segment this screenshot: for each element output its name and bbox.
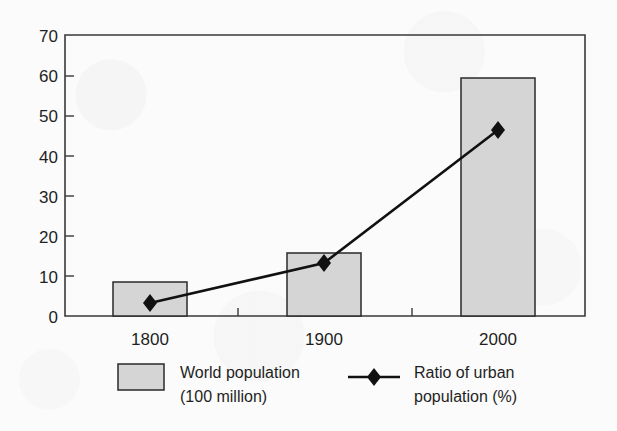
legend-swatch-bar-icon — [118, 364, 164, 390]
y-axis-tick-label-30: 30 — [39, 188, 58, 207]
legend-entry-world-population: World population (100 million) — [118, 364, 300, 405]
y-axis-tick-label-60: 60 — [39, 67, 58, 86]
legend-label-urban-ratio-line2: population (%) — [414, 388, 517, 405]
legend-label-urban-ratio-line1: Ratio of urban — [414, 364, 515, 381]
bar-2000 — [461, 78, 535, 316]
x-axis-tick-label-2000: 2000 — [479, 330, 517, 349]
legend-entry-urban-ratio: Ratio of urban population (%) — [348, 364, 517, 405]
y-axis-tick-marks — [65, 76, 74, 276]
bar-series-world-population — [113, 78, 535, 316]
y-axis-tick-label-50: 50 — [39, 107, 58, 126]
combo-bar-line-chart: 70 60 50 40 30 20 10 0 — [0, 0, 617, 431]
x-axis-tick-label-1800: 1800 — [131, 330, 169, 349]
y-axis-tick-label-40: 40 — [39, 148, 58, 167]
chart-page: 70 60 50 40 30 20 10 0 — [0, 0, 617, 431]
y-axis-tick-label-20: 20 — [39, 228, 58, 247]
legend-label-world-population-line2: (100 million) — [180, 388, 267, 405]
x-axis-tick-label-1900: 1900 — [305, 330, 343, 349]
y-axis-tick-label-10: 10 — [39, 268, 58, 287]
y-axis-tick-label-0: 0 — [49, 308, 58, 327]
y-axis-tick-label-70: 70 — [39, 27, 58, 46]
legend-label-world-population-line1: World population — [180, 364, 300, 381]
legend-diamond-marker-icon — [367, 368, 381, 386]
